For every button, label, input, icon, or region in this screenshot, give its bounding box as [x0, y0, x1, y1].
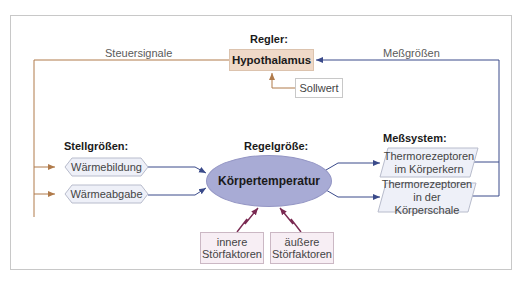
- actuators-heading: Stellgrößen:: [64, 140, 128, 152]
- actuator-heat-dissipation: Wärmeabgabe: [65, 185, 148, 203]
- controller-heading: Regler:: [250, 33, 288, 45]
- control-signals-label: Steuersignale: [105, 47, 172, 59]
- inner-disturbance-arrow: [237, 208, 258, 232]
- sensor-core: Thermorezeptoren im Körperkern: [382, 148, 476, 177]
- sensor-shell-line2: in der Körperschale: [380, 191, 474, 217]
- setpoint-box: Sollwert: [295, 78, 343, 98]
- sensor-shell-line1: Thermorezeptoren: [382, 178, 473, 191]
- sensor-arrow-2: [326, 190, 380, 197]
- outer-disturbance-box: äußere Störfaktoren: [270, 232, 334, 264]
- inner-disturbance-box: innere Störfaktoren: [200, 232, 264, 264]
- sensor-core-line1: Thermorezeptoren: [384, 150, 475, 163]
- inner-disturbance-line1: innere: [217, 236, 248, 248]
- controlled-variable-heading: Regelgröße:: [244, 140, 308, 152]
- controller-box: Hypothalamus: [229, 49, 314, 71]
- actuator-heat-production: Wärmebildung: [65, 158, 148, 176]
- actuator-arrow-1: [148, 167, 206, 173]
- sensor-shell: Thermorezeptoren in der Körperschale: [380, 183, 474, 212]
- inner-disturbance-line2: Störfaktoren: [202, 248, 262, 260]
- setpoint-arrow: [272, 73, 295, 88]
- outer-disturbance-line1: äußere: [285, 236, 320, 248]
- actuator-arrow-2: [148, 188, 206, 195]
- sensors-heading: Meßsystem:: [383, 132, 447, 144]
- outer-disturbance-arrow: [280, 208, 301, 232]
- sensor-arrow-1: [326, 163, 380, 170]
- controlled-variable-ellipse: Körpertemperatur: [206, 155, 332, 207]
- sensor-core-line2: im Körperkern: [394, 163, 463, 176]
- outer-disturbance-line2: Störfaktoren: [272, 248, 332, 260]
- measured-values-label: Meßgrößen: [383, 47, 440, 59]
